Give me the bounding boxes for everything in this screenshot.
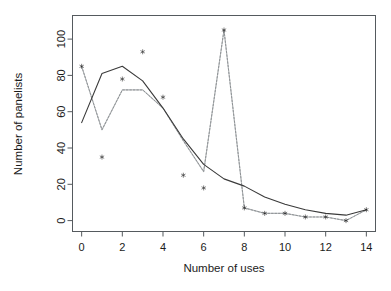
y-tick-label-80: 80 (56, 69, 68, 81)
data-point-x5 (181, 173, 185, 178)
connected-observations-line-dash (82, 30, 367, 221)
data-point-x1 (100, 155, 104, 160)
data-point-x0 (79, 64, 83, 69)
x-tick-label-8: 8 (241, 241, 247, 253)
x-axis-ticks (82, 232, 367, 237)
y-tick-label-60: 60 (56, 106, 68, 118)
data-point-x6 (202, 185, 206, 190)
x-tick-label-4: 4 (160, 241, 166, 253)
x-tick-label-0: 0 (79, 241, 85, 253)
data-point-markers (79, 28, 368, 224)
y-tick-label-0: 0 (56, 218, 68, 224)
y-axis-tick-labels: 020406080100 (56, 30, 68, 224)
connected-observations-line (82, 30, 367, 221)
data-point-x2 (120, 77, 124, 82)
x-tick-label-14: 14 (360, 241, 372, 253)
y-tick-label-20: 20 (56, 178, 68, 190)
x-tick-label-10: 10 (279, 241, 291, 253)
fitted-curve-line (82, 66, 367, 215)
x-tick-label-12: 12 (320, 241, 332, 253)
y-axis-ticks (68, 39, 73, 221)
data-point-x3 (140, 49, 144, 54)
scatter-plot-svg: 020406080100 02468101214 Number of uses … (0, 0, 391, 291)
plot-panel-border (73, 16, 376, 232)
y-tick-label-40: 40 (56, 142, 68, 154)
data-point-x4 (161, 95, 165, 100)
y-tick-label-100: 100 (56, 30, 68, 48)
y-axis-title: Number of panelists (12, 73, 24, 176)
data-point-x7 (222, 28, 226, 33)
x-axis-title: Number of uses (183, 262, 264, 274)
x-tick-label-6: 6 (201, 241, 207, 253)
chart-figure: 020406080100 02468101214 Number of uses … (0, 0, 391, 291)
x-tick-label-2: 2 (119, 241, 125, 253)
x-axis-tick-labels: 02468101214 (79, 241, 373, 253)
